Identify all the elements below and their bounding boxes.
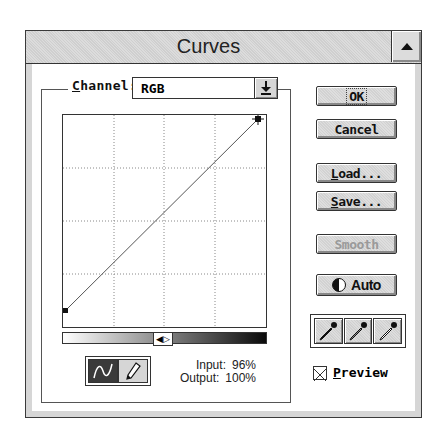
channel-dropdown[interactable]: RGB <box>132 77 278 99</box>
white-eyedropper-button[interactable] <box>373 318 402 344</box>
black-eyedropper-button[interactable] <box>314 318 343 344</box>
curve-icon <box>92 362 114 380</box>
preview-label: Preview <box>333 365 388 380</box>
output-value: 100% <box>225 372 256 385</box>
curves-dialog: Curves Channel: RGB <box>25 30 422 418</box>
save-label: ave... <box>338 194 382 209</box>
preview-checkbox-row[interactable]: Preview <box>313 365 388 380</box>
smooth-button[interactable]: Smooth <box>316 234 397 254</box>
gradient-direction-toggle[interactable]: ◀▷ <box>153 332 173 346</box>
save-accelerator: S <box>331 194 338 209</box>
ok-button[interactable]: OK <box>316 86 397 106</box>
title-bar[interactable]: Curves <box>26 31 421 64</box>
curve-tool-group <box>85 356 151 386</box>
load-label: oad... <box>338 166 382 181</box>
load-accelerator: L <box>331 166 338 181</box>
channel-accelerator: C <box>72 78 80 93</box>
curve-graph[interactable] <box>62 114 267 328</box>
curve-point-black <box>63 308 68 313</box>
curve-tool-button[interactable] <box>88 359 118 383</box>
pencil-icon <box>124 361 142 381</box>
channel-label: Channel: <box>68 78 141 93</box>
ok-label: OK <box>347 89 366 104</box>
gray-eyedropper-button[interactable] <box>344 318 373 344</box>
down-arrow-icon <box>260 81 272 95</box>
channel-value: RGB <box>141 81 164 96</box>
dropdown-button[interactable] <box>254 78 277 98</box>
curve-grid <box>63 115 266 327</box>
eyedropper-group <box>310 314 406 348</box>
eyedropper-black-icon <box>317 320 339 342</box>
auto-label: Auto <box>351 277 381 293</box>
curve-readout: Input: 96% Output: 100% <box>176 359 256 385</box>
preview-accelerator: P <box>333 365 341 380</box>
window-title: Curves <box>26 35 391 58</box>
pencil-tool-button[interactable] <box>118 359 148 383</box>
eyedropper-white-icon <box>377 320 399 342</box>
smooth-label: Smooth <box>335 237 379 252</box>
output-label: Output: <box>180 372 219 385</box>
eyedropper-gray-icon <box>347 320 369 342</box>
preview-label-text: review <box>341 365 388 380</box>
up-arrow-icon <box>401 43 413 50</box>
channel-label-text: hannel: <box>80 78 137 93</box>
cancel-button[interactable]: Cancel <box>316 119 397 139</box>
tone-gradient-bar: ◀▷ <box>62 332 267 344</box>
check-x-icon <box>314 369 326 381</box>
save-button[interactable]: Save... <box>316 191 397 211</box>
output-row: Output: 100% <box>176 372 256 385</box>
left-right-arrows-icon: ◀▷ <box>156 334 170 344</box>
load-button[interactable]: Load... <box>316 163 397 183</box>
auto-contrast-icon <box>332 278 346 292</box>
maximize-button[interactable] <box>391 31 421 62</box>
auto-button[interactable]: Auto <box>316 274 397 296</box>
preview-checkbox[interactable] <box>313 366 327 380</box>
cancel-label: Cancel <box>335 122 379 137</box>
